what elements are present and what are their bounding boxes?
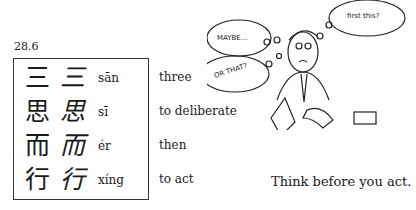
character-cursive: 而: [60, 129, 85, 163]
svg-text:MAYBE...: MAYBE...: [217, 34, 247, 42]
character: 思: [25, 95, 50, 129]
table-row: 三 三 sān: [14, 61, 148, 95]
table-row: 行 行 xíng: [14, 163, 148, 197]
character-cursive: 三: [60, 61, 85, 95]
table-row: 思 思 sī: [14, 95, 148, 129]
table-row: 而 而 ér: [14, 129, 148, 163]
svg-text:OR THAT?: OR THAT?: [213, 62, 248, 80]
character-table: 三 三 sān 思 思 sī 而 而 ér 行 行 xíng: [13, 58, 149, 200]
svg-text:first this?: first this?: [347, 12, 380, 20]
pinyin: xíng: [98, 163, 124, 197]
pinyin: sān: [98, 61, 119, 95]
pinyin: sī: [98, 95, 108, 129]
pinyin: ér: [98, 129, 111, 163]
section-number: 28.6: [14, 40, 39, 53]
meaning: to act: [159, 162, 194, 196]
character-cursive: 思: [60, 95, 85, 129]
meaning: three: [159, 60, 192, 94]
character: 三: [25, 61, 50, 95]
thinking-man-illustration: MAYBE... OR THAT? first this?: [207, 0, 416, 130]
meaning: then: [159, 128, 186, 162]
character: 而: [25, 129, 50, 163]
motto: Think before you act.: [271, 174, 411, 189]
character-cursive: 行: [60, 163, 85, 197]
character: 行: [25, 163, 50, 197]
